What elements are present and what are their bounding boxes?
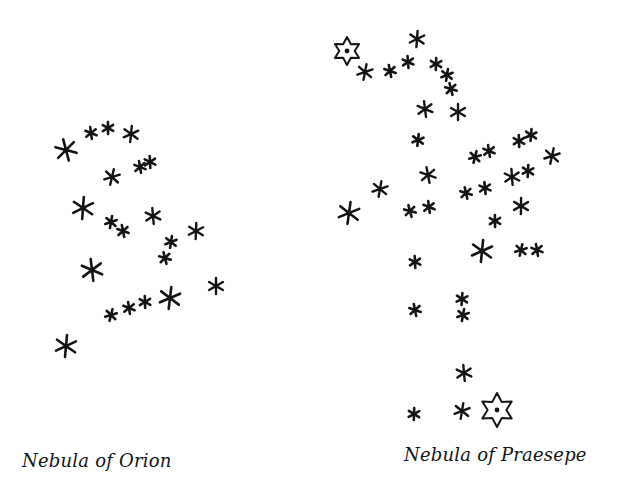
star-icon	[103, 122, 113, 134]
star-icon	[441, 69, 452, 81]
star-icon	[410, 31, 424, 47]
star-icon	[457, 365, 472, 381]
star-icon	[523, 165, 534, 177]
star-icon	[526, 129, 537, 141]
star-icon	[189, 223, 203, 239]
star-icon	[420, 167, 435, 183]
star-icon	[123, 302, 134, 314]
star-icon	[505, 169, 519, 185]
star-icon	[373, 181, 388, 197]
star-icon	[404, 205, 416, 217]
star-icon	[104, 169, 119, 185]
orion-star-pattern	[55, 122, 223, 357]
star-icon	[384, 65, 395, 77]
star-icon	[410, 256, 421, 268]
star-icon	[418, 101, 433, 117]
star-icon	[146, 208, 161, 224]
star-chart-canvas	[0, 0, 619, 498]
star-icon	[134, 161, 145, 173]
outlined-star-icon	[335, 37, 359, 65]
star-icon	[531, 244, 542, 256]
star-icon	[56, 335, 76, 357]
star-icon	[457, 293, 468, 305]
star-icon	[124, 126, 139, 142]
star-icon	[472, 240, 492, 262]
star-icon	[105, 216, 116, 228]
star-icon	[339, 202, 359, 224]
star-icon	[82, 259, 102, 281]
star-icon	[460, 187, 471, 199]
star-icon	[85, 127, 96, 139]
star-icon	[117, 225, 128, 237]
star-icon	[403, 56, 414, 68]
star-icon	[544, 148, 559, 164]
star-icon	[159, 252, 171, 264]
star-icon	[140, 296, 151, 308]
star-icon	[455, 403, 470, 419]
star-icon	[209, 278, 223, 294]
praesepe-caption: Nebula of Praesepe	[404, 444, 587, 465]
praesepe-star-pattern	[335, 31, 560, 427]
star-icon	[160, 287, 180, 309]
star-icon	[457, 309, 468, 321]
star-icon	[423, 201, 434, 213]
star-icon	[413, 134, 424, 146]
star-icon	[515, 244, 526, 256]
star-icon	[165, 236, 176, 248]
star-icon	[480, 182, 491, 194]
star-icon	[451, 104, 465, 120]
orion-caption: Nebula of Orion	[22, 450, 172, 471]
star-icon	[409, 408, 420, 420]
star-icon	[357, 64, 372, 80]
outlined-star-icon	[482, 393, 511, 427]
star-icon	[409, 304, 420, 316]
star-icon	[445, 83, 457, 95]
star-icon	[55, 139, 76, 160]
star-icon	[483, 145, 494, 157]
star-icon	[105, 309, 117, 321]
star-icon	[145, 156, 156, 168]
star-icon	[73, 197, 93, 219]
star-icon	[514, 198, 528, 214]
star-icon	[431, 58, 442, 70]
star-icon	[469, 151, 481, 163]
star-icon	[514, 135, 525, 147]
star-icon	[490, 215, 500, 227]
